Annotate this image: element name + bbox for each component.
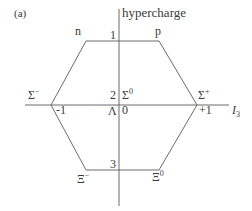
particle-charge: 0: [129, 87, 133, 96]
particle-symbol: Σ: [198, 88, 205, 102]
particle-label-sigma-minus: Σ−: [28, 88, 40, 101]
y-tick-label-2: 2: [110, 89, 116, 101]
x-tick-label-plus-one: +1: [199, 104, 212, 116]
particle-charge: −: [85, 171, 90, 180]
origin-label: 0: [122, 104, 128, 116]
particle-charge: +: [205, 87, 210, 96]
particle-label-xi-zero: Ξ0: [152, 170, 164, 183]
panel-label: (a): [14, 8, 26, 19]
particle-symbol: Σ: [122, 88, 129, 102]
x-tick-label-minus-one: -1: [56, 104, 66, 116]
particle-label-lambda: Λ: [108, 104, 117, 117]
particle-label-xi-minus: Ξ−: [77, 172, 89, 185]
particle-symbol: Σ: [28, 88, 35, 102]
particle-label-proton: p: [155, 24, 161, 37]
y-tick-label-3: 3: [110, 158, 116, 170]
baryon-octet-weight-diagram: (a) hypercharge I3 1 2 3 0 -1 +1 n p Σ− …: [0, 0, 252, 211]
particle-symbol: n: [75, 24, 81, 38]
particle-label-sigma-zero: Σ0: [122, 88, 133, 101]
particle-symbol: Ξ: [77, 172, 85, 186]
x-axis-title-subscript: 3: [236, 110, 240, 119]
y-axis-title: hypercharge: [122, 6, 186, 19]
y-tick-label-1: 1: [110, 29, 116, 41]
particle-charge: 0: [160, 169, 164, 178]
particle-symbol: Λ: [108, 104, 117, 118]
particle-symbol: p: [155, 24, 161, 38]
particle-symbol: Ξ: [152, 170, 160, 184]
particle-label-sigma-plus: Σ+: [198, 88, 210, 101]
x-axis-title: I3: [232, 104, 240, 119]
particle-label-neutron: n: [75, 24, 81, 37]
particle-charge: −: [35, 87, 40, 96]
